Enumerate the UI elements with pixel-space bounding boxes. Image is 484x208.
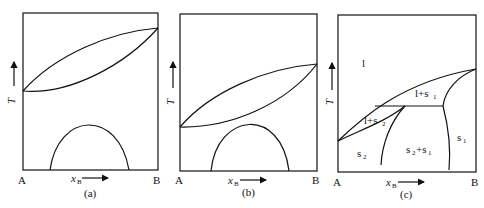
region-liquid-s1-label: l+s bbox=[415, 87, 429, 99]
region-s1-sub: 1 bbox=[463, 137, 467, 145]
panel-c-s1-solvus-curve bbox=[443, 106, 450, 170]
panel-a-frame bbox=[23, 13, 158, 170]
panel-a-miscibility-gap-dome bbox=[50, 125, 129, 170]
region-s2-label: s bbox=[357, 147, 361, 159]
panel-b-x-subscript: B bbox=[234, 180, 239, 188]
panel-b-frame bbox=[180, 14, 317, 171]
panel-a-t-label: T bbox=[5, 97, 17, 104]
region-liquid-s1-sub: 1 bbox=[433, 93, 437, 101]
panel-b-t-label: T bbox=[164, 98, 176, 105]
panel-b-solidus-curve bbox=[180, 64, 317, 127]
phase-diagram-figure: T A B x B (a) T A B x B (b) T A B x B (c… bbox=[0, 0, 484, 208]
region-s2-s1-plus: +s bbox=[416, 143, 426, 155]
panel-c-x-subscript: B bbox=[392, 182, 397, 190]
panel-b-miscibility-gap-dome bbox=[211, 124, 289, 171]
panel-c-caption: (c) bbox=[400, 188, 413, 201]
panel-c-liquidus-curve bbox=[338, 69, 476, 141]
region-s2-sub: 2 bbox=[363, 153, 367, 161]
panel-b-x-label: x bbox=[227, 174, 233, 186]
panel-b-caption: (b) bbox=[242, 186, 255, 199]
panel-b-left-label: A bbox=[175, 174, 183, 186]
panel-a-liquidus-curve bbox=[23, 28, 158, 91]
panel-b-right-label: B bbox=[312, 174, 319, 186]
panel-a-x-label: x bbox=[70, 172, 76, 184]
panel-c-t-label: T bbox=[323, 98, 335, 105]
panel-a-right-label: B bbox=[153, 174, 160, 186]
region-s1-label: s bbox=[457, 131, 461, 143]
panel-c-right-label: B bbox=[471, 176, 478, 188]
region-s2-s1-label: s bbox=[406, 143, 410, 155]
region-liquid-label: l bbox=[362, 57, 365, 69]
region-s2-s1-sub-b: 1 bbox=[428, 149, 432, 157]
panel-b bbox=[173, 14, 317, 180]
panel-a-x-subscript: B bbox=[77, 178, 82, 186]
panel-a-solidus-curve bbox=[23, 28, 158, 91]
panel-c-s1-solidus-curve bbox=[443, 69, 476, 106]
region-liquid-s2-sub: 2 bbox=[382, 120, 386, 128]
panel-a-left-label: A bbox=[18, 174, 26, 186]
panel-c bbox=[332, 15, 476, 182]
panel-a-caption: (a) bbox=[84, 187, 97, 200]
panel-c-left-label: A bbox=[333, 176, 341, 188]
region-liquid-s2-label: l+s bbox=[364, 114, 378, 126]
panel-b-liquidus-curve bbox=[180, 64, 317, 127]
panel-c-x-label: x bbox=[385, 176, 391, 188]
panel-a bbox=[14, 13, 158, 178]
